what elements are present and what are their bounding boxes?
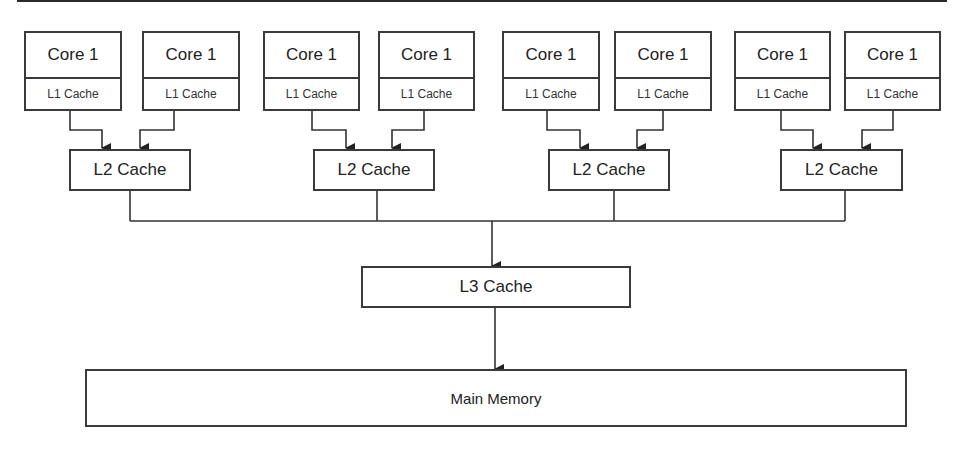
l2-cache-box: L2 Cache xyxy=(548,149,670,191)
core-label: Core 1 xyxy=(504,33,598,79)
l1-cache-label: L1 Cache xyxy=(26,79,120,109)
core-box: Core 1 L1 Cache xyxy=(263,31,360,111)
core-label: Core 1 xyxy=(26,33,120,79)
core-box: Core 1 L1 Cache xyxy=(844,31,941,111)
core-label: Core 1 xyxy=(846,33,939,79)
core-label: Core 1 xyxy=(265,33,358,79)
core-label: Core 1 xyxy=(736,33,829,79)
l3-cache-label: L3 Cache xyxy=(460,277,533,297)
main-memory-label: Main Memory xyxy=(451,390,542,407)
l2-cache-box: L2 Cache xyxy=(780,149,903,191)
l2-cache-box: L2 Cache xyxy=(69,149,191,191)
core-box: Core 1 L1 Cache xyxy=(614,31,712,111)
l3-cache-box: L3 Cache xyxy=(361,266,631,308)
l2-cache-box: L2 Cache xyxy=(313,149,435,191)
l1-cache-label: L1 Cache xyxy=(265,79,358,109)
l1-cache-label: L1 Cache xyxy=(144,79,238,109)
core-box: Core 1 L1 Cache xyxy=(734,31,831,111)
core-box: Core 1 L1 Cache xyxy=(24,31,122,111)
core-label: Core 1 xyxy=(144,33,238,79)
l2-cache-label: L2 Cache xyxy=(805,160,878,180)
main-memory-box: Main Memory xyxy=(85,369,907,427)
l2-cache-label: L2 Cache xyxy=(338,160,411,180)
l2-cache-label: L2 Cache xyxy=(94,160,167,180)
core-label: Core 1 xyxy=(380,33,473,79)
core-box: Core 1 L1 Cache xyxy=(378,31,475,111)
l1-cache-label: L1 Cache xyxy=(504,79,598,109)
l1-cache-label: L1 Cache xyxy=(616,79,710,109)
core-box: Core 1 L1 Cache xyxy=(502,31,600,111)
l1-cache-label: L1 Cache xyxy=(380,79,473,109)
l1-cache-label: L1 Cache xyxy=(846,79,939,109)
core-label: Core 1 xyxy=(616,33,710,79)
l2-cache-label: L2 Cache xyxy=(573,160,646,180)
core-box: Core 1 L1 Cache xyxy=(142,31,240,111)
l1-cache-label: L1 Cache xyxy=(736,79,829,109)
